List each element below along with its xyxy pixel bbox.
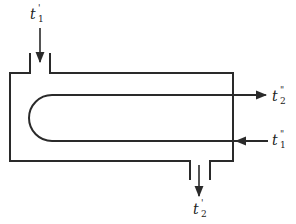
label-tube-outlet: t " 2: [272, 89, 278, 103]
shell-outline: [10, 53, 233, 180]
label-shell-outlet: t ' 2: [193, 202, 199, 216]
label-tube-inlet: t " 1: [272, 133, 278, 147]
heat-exchanger-diagram: [0, 0, 296, 224]
label-shell-inlet: t ' 1: [30, 7, 36, 21]
